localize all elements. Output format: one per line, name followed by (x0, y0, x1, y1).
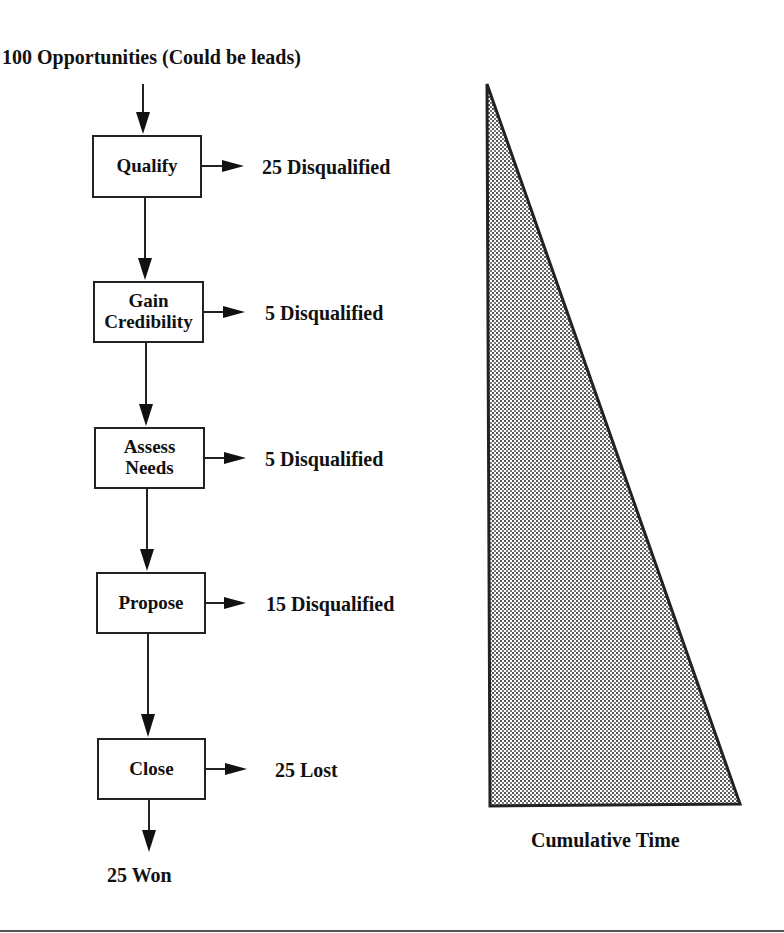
cumulative-time-triangle (487, 84, 740, 806)
stage-propose: Propose (96, 572, 206, 634)
stage-label-line2: Needs (125, 458, 174, 479)
outcome-arrows (202, 160, 247, 775)
stage-label-line1: Assess (124, 437, 176, 458)
stage-label-line2: Credibility (104, 312, 192, 333)
stage-label: Propose (118, 593, 183, 614)
outcome-close: 25 Lost (275, 760, 338, 780)
stage-label: Close (129, 759, 173, 780)
stage-gain-credibility: Gain Credibility (93, 281, 204, 343)
stage-label: Qualify (116, 156, 177, 177)
final-output-label: 25 Won (107, 865, 172, 885)
outcome-gain-credibility: 5 Disqualified (265, 303, 383, 323)
stage-label-line1: Gain (128, 291, 168, 312)
stage-assess-needs: Assess Needs (94, 427, 205, 489)
outcome-qualify: 25 Disqualified (262, 157, 390, 177)
outcome-propose: 15 Disqualified (266, 594, 394, 614)
stage-qualify: Qualify (92, 135, 202, 198)
cumulative-time-label: Cumulative Time (531, 830, 680, 850)
stage-close: Close (97, 738, 206, 800)
outcome-assess-needs: 5 Disqualified (265, 449, 383, 469)
input-label: 100 Opportunities (Could be leads) (2, 47, 301, 67)
